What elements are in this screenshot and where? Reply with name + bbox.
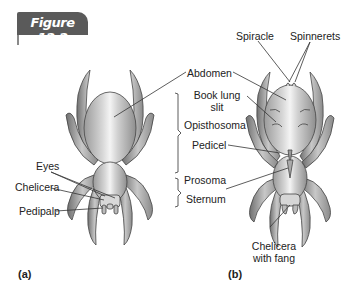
label-prosoma: Prosoma [184,174,226,186]
label-sternum: Sternum [186,193,226,205]
label-spinnerets: Spinnerets [290,30,340,42]
panel-tag-b: (b) [228,268,242,280]
label-pedicel: Pedicel [192,139,226,151]
spider-dorsal [66,70,154,245]
label-book-lung: Book lung slit [184,89,250,113]
label-chelicera-fang-line1: Chelicera [244,240,304,252]
label-chelicera-fang-line2: with fang [244,252,304,264]
spider-ventral [246,72,334,247]
label-chelicera-with-fang: Chelicera with fang [244,240,304,264]
label-opisthosoma: Opisthosoma [184,119,246,131]
label-abdomen: Abdomen [187,67,232,79]
label-eyes: Eyes [36,160,59,172]
panel-tag-a: (a) [18,268,31,280]
label-spiracle: Spiracle [236,30,274,42]
label-chelicera: Chelicera [15,181,59,193]
label-pedipalp: Pedipalp [19,205,60,217]
label-book-lung-line1: Book lung [184,89,250,101]
label-book-lung-line2: slit [184,101,250,113]
